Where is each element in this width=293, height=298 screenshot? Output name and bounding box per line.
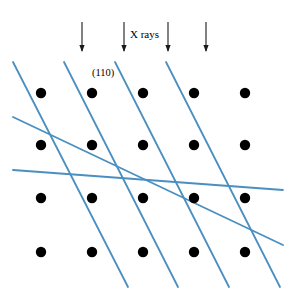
- lattice-atom: [189, 140, 199, 150]
- lattice-atom: [240, 88, 250, 98]
- plane-line: [166, 62, 280, 287]
- arrow-head: [203, 45, 208, 52]
- arrow-head: [165, 45, 170, 52]
- lattice-atoms-group: [36, 88, 250, 257]
- xray-arrow: [203, 22, 208, 52]
- figure-canvas: [0, 0, 293, 298]
- lattice-atom: [189, 88, 199, 98]
- lattice-atom: [36, 247, 46, 257]
- lattice-atom: [87, 247, 97, 257]
- lattice-atom: [138, 247, 148, 257]
- xray-arrow: [165, 22, 170, 52]
- lattice-atom: [240, 247, 250, 257]
- plane-line: [115, 62, 229, 287]
- plane-line: [13, 170, 283, 190]
- lattice-atom: [36, 193, 46, 203]
- xray-arrow: [79, 22, 84, 52]
- lattice-atom: [240, 140, 250, 150]
- lattice-atom: [36, 140, 46, 150]
- xrays-label: X rays: [130, 29, 159, 40]
- lattice-atom: [87, 193, 97, 203]
- lattice-atom: [138, 140, 148, 150]
- lattice-atom: [36, 88, 46, 98]
- lattice-atom: [138, 193, 148, 203]
- lattice-atom: [240, 193, 250, 203]
- xray-diffraction-figure: X rays (110): [0, 0, 293, 298]
- plane-index-label: (110): [92, 68, 114, 79]
- xray-arrow: [121, 22, 126, 52]
- lattice-atom: [189, 193, 199, 203]
- lattice-atom: [189, 247, 199, 257]
- lattice-atom: [87, 140, 97, 150]
- arrow-head: [79, 45, 84, 52]
- lattice-atom: [138, 88, 148, 98]
- lattice-atom: [87, 88, 97, 98]
- arrow-head: [121, 45, 126, 52]
